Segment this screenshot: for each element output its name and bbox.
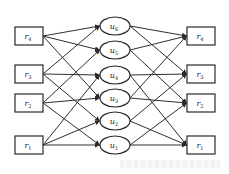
- edge-arrow: [43, 36, 100, 50]
- faded-caption-artifact: [120, 160, 220, 168]
- edge-arrow: [43, 74, 100, 75]
- input-node-r3: r3: [15, 65, 43, 83]
- hidden-node-u3: u3: [100, 89, 130, 107]
- edge-arrow: [43, 50, 100, 103]
- edge-arrow: [130, 98, 187, 103]
- edge-arrow: [130, 36, 187, 50]
- output-node-r3: r3: [187, 65, 215, 83]
- edge-arrow: [130, 50, 187, 103]
- edge-arrow: [130, 74, 187, 121]
- edge-arrow: [43, 26, 100, 36]
- input-node-r2: r2: [15, 94, 43, 112]
- hidden-node-u2: u2: [100, 112, 130, 130]
- output-node-r2: r2: [187, 94, 215, 112]
- hidden-node-u6: u6: [100, 17, 130, 35]
- output-node-r1: r1: [187, 136, 215, 154]
- edge-arrow: [130, 74, 187, 75]
- edge-arrow: [43, 98, 100, 103]
- edge-arrow: [43, 75, 100, 145]
- input-node-r4: r4: [15, 27, 43, 45]
- output-node-r4: r4: [187, 27, 215, 45]
- hidden-node-u1: u1: [100, 136, 130, 154]
- mapping-diagram: r4r3r2r1u6u5u4u3u2u1r4r3r2r1: [0, 0, 229, 174]
- edge-arrow: [43, 74, 100, 121]
- hidden-node-u5: u5: [100, 41, 130, 59]
- hidden-node-u4: u4: [100, 66, 130, 84]
- edge-arrow: [130, 75, 187, 145]
- input-node-r1: r1: [15, 136, 43, 154]
- edge-arrow: [130, 26, 187, 36]
